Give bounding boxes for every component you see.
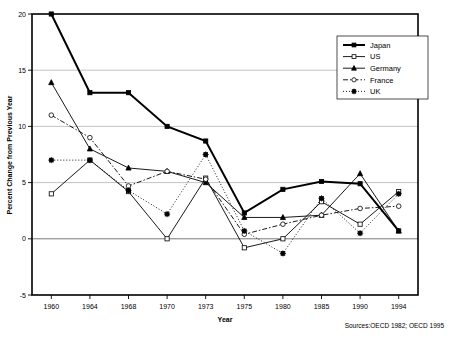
y-tick-label: 0 xyxy=(22,235,26,242)
x-tick-label: 1970 xyxy=(159,303,175,310)
data-point xyxy=(319,213,324,218)
x-tick-label: 1994 xyxy=(391,303,407,310)
data-point xyxy=(319,179,323,183)
legend-label-japan: Japan xyxy=(370,41,390,50)
data-point xyxy=(88,135,93,140)
x-tick-label: 1985 xyxy=(314,303,330,310)
y-tick-label: 15 xyxy=(18,67,26,74)
x-tick-label: 1975 xyxy=(237,303,253,310)
y-axis-title: Percent Change from Previous Year xyxy=(6,95,14,214)
data-point xyxy=(358,222,362,226)
data-point xyxy=(281,222,286,227)
data-point xyxy=(352,43,356,47)
x-tick-label: 1964 xyxy=(82,303,98,310)
legend-label-us: US xyxy=(370,52,380,61)
source-note: Sources:OECD 1982; OECD 1995 xyxy=(345,322,445,329)
x-tick-label: 1968 xyxy=(121,303,137,310)
data-point xyxy=(165,169,170,174)
y-tick-label: 20 xyxy=(18,11,26,18)
data-point xyxy=(281,187,285,191)
chart-container: 20151050-5 19601964196819701973197519801… xyxy=(0,0,449,339)
data-point xyxy=(396,204,401,209)
legend-label-uk: UK xyxy=(370,87,380,96)
y-tick-label: 5 xyxy=(22,179,26,186)
data-point xyxy=(88,91,92,95)
data-point xyxy=(49,113,54,118)
x-axis-title: Year xyxy=(218,316,233,323)
legend-label-germany: Germany xyxy=(370,64,401,73)
x-tick-label: 1960 xyxy=(44,303,60,310)
legend: JapanUSGermanyFranceUK xyxy=(337,36,428,99)
data-point xyxy=(165,124,169,128)
data-point xyxy=(358,206,363,211)
x-tick-label: 1980 xyxy=(275,303,291,310)
data-point xyxy=(165,237,169,241)
data-point xyxy=(352,78,356,82)
data-point xyxy=(242,246,246,250)
x-tick-label: 1990 xyxy=(352,303,368,310)
data-point xyxy=(126,91,130,95)
data-point xyxy=(352,55,356,59)
data-point xyxy=(204,139,208,143)
line-chart: 20151050-5 19601964196819701973197519801… xyxy=(0,0,449,339)
data-point xyxy=(49,192,53,196)
y-tick-label: 10 xyxy=(18,123,26,130)
data-point xyxy=(281,237,285,241)
x-tick-label: 1973 xyxy=(198,303,214,310)
data-point xyxy=(203,177,208,182)
legend-label-france: France xyxy=(370,76,393,85)
y-tick-label: -5 xyxy=(20,292,26,299)
data-point xyxy=(358,182,362,186)
